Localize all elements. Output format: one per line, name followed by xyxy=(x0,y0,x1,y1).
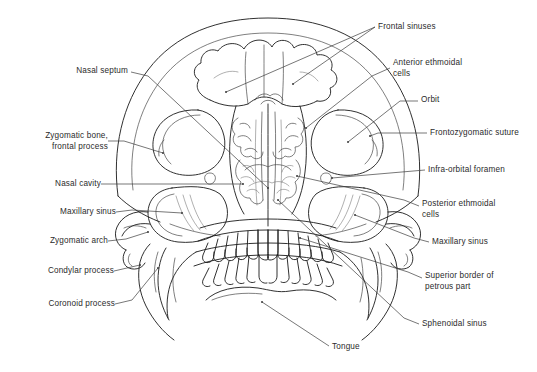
leader-maxillary-sinus-left xyxy=(116,210,183,214)
leader-nasal-septum xyxy=(131,72,269,189)
leader-posterior-ethmoidal xyxy=(296,175,419,206)
orbit-left xyxy=(153,110,225,175)
frontal-sinuses-shape xyxy=(194,40,337,106)
orbit-right xyxy=(311,110,383,175)
leader-coronoid-process xyxy=(115,267,159,304)
label-maxillary-sinus-left: Maxillary sinus xyxy=(60,207,116,218)
leader-zygomatic-arch xyxy=(108,231,149,241)
label-nasal-septum: Nasal septum xyxy=(76,66,128,77)
leader-zygomatic-bone xyxy=(108,141,164,154)
zygomatic-arch-right xyxy=(386,212,421,250)
maxillary-sinus-left-shape xyxy=(148,187,227,243)
label-frontozygomatic-suture: Frontozygomatic suture xyxy=(430,128,519,139)
label-orbit: Orbit xyxy=(421,95,440,106)
leader-nasal-cavity xyxy=(101,183,244,185)
label-superior-border-petrous-part: Superior border of petrous part xyxy=(425,271,494,292)
label-zygomatic-bone-frontal-process: Zygomatic bone, frontal process xyxy=(45,131,108,152)
leader-tongue xyxy=(261,301,329,346)
label-infra-orbital-foramen: Infra-orbital foramen xyxy=(428,165,505,176)
leader-superior-border-petrous xyxy=(299,237,422,278)
label-zygomatic-arch: Zygomatic arch xyxy=(50,236,108,247)
leader-anterior-ethmoidal xyxy=(305,68,390,129)
mandible-right xyxy=(340,244,397,340)
label-condylar-process: Condylar process xyxy=(48,266,114,277)
mandible-left xyxy=(139,244,196,340)
label-posterior-ethmoidal-cells: Posterior ethmoidal cells xyxy=(422,199,495,220)
label-tongue: Tongue xyxy=(332,342,360,353)
anatomical-diagram: Frontal sinuses Anterior ethmoidal cells… xyxy=(0,0,537,372)
leader-sphenoidal-sinus xyxy=(277,199,419,324)
petrous-ridge-right xyxy=(316,195,418,236)
label-maxillary-sinus-right: Maxillary sinus xyxy=(432,237,488,248)
ethmoid-nasal-complex xyxy=(230,94,307,226)
label-coronoid-process: Coronoid process xyxy=(48,299,115,310)
label-frontal-sinuses: Frontal sinuses xyxy=(378,22,436,33)
label-sphenoidal-sinus: Sphenoidal sinus xyxy=(422,319,487,330)
label-anterior-ethmoidal-cells: Anterior ethmoidal cells xyxy=(393,58,462,79)
maxillary-sinus-right-shape xyxy=(309,187,388,243)
leader-frontozygomatic-suture xyxy=(369,133,427,137)
label-nasal-cavity: Nasal cavity xyxy=(55,179,101,190)
zygomatic-arch-left xyxy=(115,212,150,250)
tongue-shape xyxy=(206,287,336,300)
leader-infra-orbital-foramen xyxy=(331,170,425,179)
leader-maxillary-sinus-right xyxy=(354,214,429,242)
leader-frontal-sinuses xyxy=(225,27,375,93)
petrous-ridge-left xyxy=(118,195,220,236)
